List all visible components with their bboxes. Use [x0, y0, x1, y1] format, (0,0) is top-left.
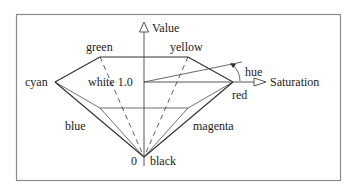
white-label: white 1.0 [88, 75, 133, 89]
cyan-label: cyan [25, 75, 48, 89]
hexcone-svg: Value Saturation hue green yellow cyan w… [0, 0, 359, 190]
saturation-axis [144, 78, 266, 86]
red-label: red [232, 88, 247, 102]
value-label: Value [152, 21, 179, 35]
edge-yellow-red [188, 57, 233, 82]
value-axis [140, 22, 149, 166]
edge-magenta-black [144, 108, 188, 157]
saturation-label: Saturation [270, 75, 319, 89]
hue-arc [233, 65, 240, 81]
blue-label: blue [65, 119, 86, 133]
edge-magenta-red [188, 82, 233, 108]
edge-yellow-black-hidden [144, 57, 188, 157]
hue-label: hue [245, 65, 262, 79]
green-label: green [86, 40, 113, 54]
yellow-label: yellow [170, 40, 203, 54]
black-label: black [150, 154, 176, 168]
saturation-axis-arrowhead [254, 78, 266, 86]
edge-green-black-hidden [100, 57, 144, 157]
value-axis-arrowhead [140, 22, 149, 32]
hsv-hexcone-figure: Value Saturation hue green yellow cyan w… [0, 0, 359, 190]
edge-blue-black [100, 108, 144, 157]
zero-label: 0 [131, 154, 137, 168]
magenta-label: magenta [193, 119, 234, 133]
